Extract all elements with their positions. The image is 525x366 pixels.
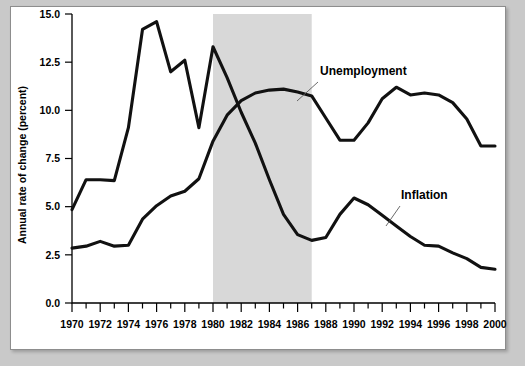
x-tick-label: 1982 xyxy=(230,318,254,330)
x-tick-label: 1984 xyxy=(258,318,282,330)
series-annotations-group: UnemploymentInflation xyxy=(297,64,448,226)
x-tick-label: 1996 xyxy=(427,318,451,330)
x-axis-ticks xyxy=(72,303,495,312)
y-tick-label: 2.5 xyxy=(45,249,60,261)
x-tick-label: 1988 xyxy=(314,318,338,330)
y-tick-label: 15.0 xyxy=(40,8,61,20)
y-axis-title: Annual rate of change (percent) xyxy=(16,86,28,244)
inflation-label: Inflation xyxy=(401,188,448,202)
x-tick-label: 1972 xyxy=(89,318,113,330)
x-axis-tick-labels: 1970197219741976197819801982198419861988… xyxy=(60,318,507,330)
y-axis-tick-labels: 0.02.55.07.510.012.515.0 xyxy=(40,8,61,309)
x-tick-label: 1976 xyxy=(145,318,169,330)
x-tick-label: 1980 xyxy=(201,318,225,330)
y-tick-label: 12.5 xyxy=(40,56,61,68)
y-tick-label: 10.0 xyxy=(40,104,61,116)
figure-container: 1970197219741976197819801982198419861988… xyxy=(0,0,525,366)
x-tick-label: 1974 xyxy=(117,318,141,330)
y-tick-label: 5.0 xyxy=(45,200,60,212)
x-tick-label: 1992 xyxy=(371,318,395,330)
unemployment-label: Unemployment xyxy=(320,64,407,78)
y-tick-label: 7.5 xyxy=(45,152,60,164)
x-tick-label: 1970 xyxy=(60,318,84,330)
x-tick-label: 2000 xyxy=(483,318,507,330)
x-tick-label: 1998 xyxy=(455,318,479,330)
x-tick-label: 1978 xyxy=(173,318,197,330)
x-tick-label: 1990 xyxy=(342,318,366,330)
y-tick-label: 0.0 xyxy=(45,297,60,309)
chart-canvas: 1970197219741976197819801982198419861988… xyxy=(0,0,525,366)
y-axis-ticks xyxy=(65,14,72,303)
x-tick-label: 1986 xyxy=(286,318,310,330)
x-tick-label: 1994 xyxy=(399,318,423,330)
